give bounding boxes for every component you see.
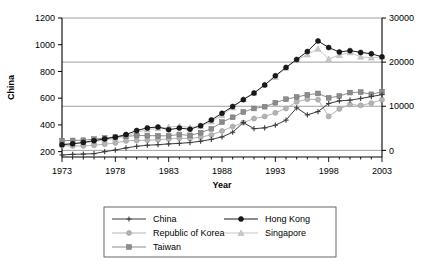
marker-circle: [294, 99, 299, 104]
right-tick-label: 0: [389, 146, 394, 156]
marker-triangle: [315, 46, 321, 51]
marker-square: [177, 132, 182, 137]
left-tick-label: 800: [40, 67, 55, 77]
marker-circle: [92, 138, 97, 143]
marker-circle: [284, 106, 289, 111]
left-tick-label: 600: [40, 93, 55, 103]
marker-square: [156, 133, 161, 138]
left-tick-label: 200: [40, 147, 55, 157]
marker-square: [305, 92, 310, 97]
marker-circle: [145, 125, 150, 130]
x-tick-label: 1973: [52, 166, 72, 176]
marker-circle: [305, 97, 310, 102]
left-tick-label: 400: [40, 120, 55, 130]
left-tick-label: 1000: [35, 40, 55, 50]
legend-label: Singapore: [265, 228, 306, 238]
marker-square: [262, 104, 267, 109]
marker-square: [145, 133, 150, 138]
marker-circle: [230, 104, 235, 109]
marker-square: [273, 100, 278, 105]
marker-circle: [124, 138, 129, 143]
marker-square: [220, 120, 225, 125]
x-axis-title: Year: [212, 180, 232, 190]
left-tick-label: 1200: [35, 13, 55, 23]
marker-square: [284, 97, 289, 102]
marker-circle: [81, 140, 86, 145]
legend-label: Republic of Korea: [153, 228, 225, 238]
marker-square: [209, 126, 214, 131]
marker-circle: [113, 140, 118, 145]
x-tick-label: 1988: [212, 166, 232, 176]
marker-circle: [156, 124, 161, 129]
marker-circle: [230, 124, 235, 129]
marker-square: [252, 106, 257, 111]
marker-circle: [294, 57, 299, 62]
marker-square: [337, 94, 342, 99]
marker-square: [316, 91, 321, 96]
marker-square: [241, 110, 246, 115]
chart-legend: ChinaHong KongRepublic of KoreaSingapore…: [104, 207, 336, 257]
line-chart: 2004006008001000120001000020000300001973…: [0, 0, 435, 261]
marker-square: [198, 130, 203, 135]
y-axis-title: China: [6, 74, 16, 100]
marker-square: [166, 133, 171, 138]
tick-labels: 2004006008001000120001000020000300001973…: [35, 13, 414, 176]
marker-circle: [70, 141, 75, 146]
legend-label: Taiwan: [153, 242, 181, 252]
marker-circle: [92, 143, 97, 148]
marker-circle: [326, 45, 331, 50]
marker-circle: [209, 132, 214, 137]
x-tick-label: 2003: [372, 166, 392, 176]
marker-circle: [241, 97, 246, 102]
chart-figure: 2004006008001000120001000020000300001973…: [0, 0, 435, 261]
marker-circle: [102, 136, 107, 141]
marker-circle: [273, 73, 278, 78]
marker-circle: [198, 123, 203, 128]
marker-circle: [273, 110, 278, 115]
marker-circle: [127, 231, 132, 236]
series-line: [62, 95, 382, 155]
marker-circle: [188, 127, 193, 132]
marker-circle: [145, 138, 150, 143]
marker-circle: [220, 111, 225, 116]
marker-square: [127, 245, 132, 250]
marker-circle: [134, 128, 139, 133]
data-series: [59, 38, 385, 157]
marker-circle: [134, 138, 139, 143]
marker-circle: [262, 114, 267, 119]
marker-circle: [358, 50, 363, 55]
marker-square: [230, 115, 235, 120]
marker-circle: [209, 117, 214, 122]
marker-circle: [60, 142, 65, 147]
right-tick-label: 30000: [389, 13, 414, 23]
marker-square: [294, 95, 299, 100]
marker-circle: [102, 142, 107, 147]
marker-circle: [316, 38, 321, 43]
marker-circle: [252, 91, 257, 96]
x-tick-label: 1978: [105, 166, 125, 176]
marker-circle: [113, 135, 118, 140]
marker-circle: [316, 97, 321, 102]
marker-circle: [177, 126, 182, 131]
marker-circle: [252, 116, 257, 121]
marker-circle: [337, 106, 342, 111]
marker-circle: [348, 48, 353, 53]
x-tick-label: 1998: [319, 166, 339, 176]
marker-circle: [380, 97, 385, 102]
right-tick-label: 10000: [389, 101, 414, 111]
marker-circle: [358, 103, 363, 108]
x-tick-label: 1993: [265, 166, 285, 176]
marker-square: [348, 90, 353, 95]
marker-circle: [380, 54, 385, 59]
marker-square: [188, 133, 193, 138]
marker-circle: [284, 65, 289, 70]
legend-label: Hong Kong: [265, 214, 310, 224]
legend-label: China: [153, 214, 177, 224]
x-tick-label: 1983: [159, 166, 179, 176]
marker-circle: [166, 127, 171, 132]
marker-circle: [326, 114, 331, 119]
marker-square: [358, 90, 363, 95]
marker-square: [134, 133, 139, 138]
marker-circle: [239, 217, 244, 222]
marker-circle: [220, 128, 225, 133]
